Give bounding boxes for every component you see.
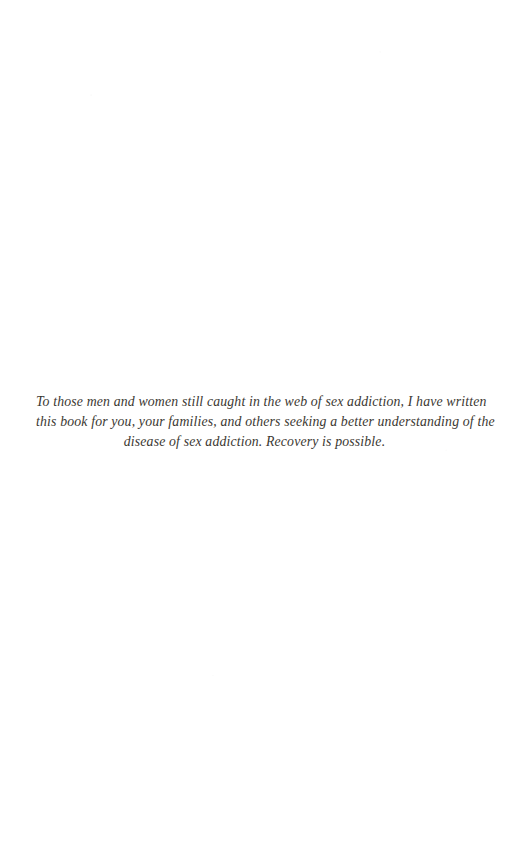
dedication-text-block: To those men and women still caught in t… xyxy=(36,392,473,452)
dedication-line-2: this book for you, your families, and ot… xyxy=(36,412,473,432)
dedication-line-1: To those men and women still caught in t… xyxy=(36,392,473,412)
book-page: To those men and women still caught in t… xyxy=(0,0,507,866)
dedication-line-3: disease of sex addiction. Recovery is po… xyxy=(36,432,473,452)
